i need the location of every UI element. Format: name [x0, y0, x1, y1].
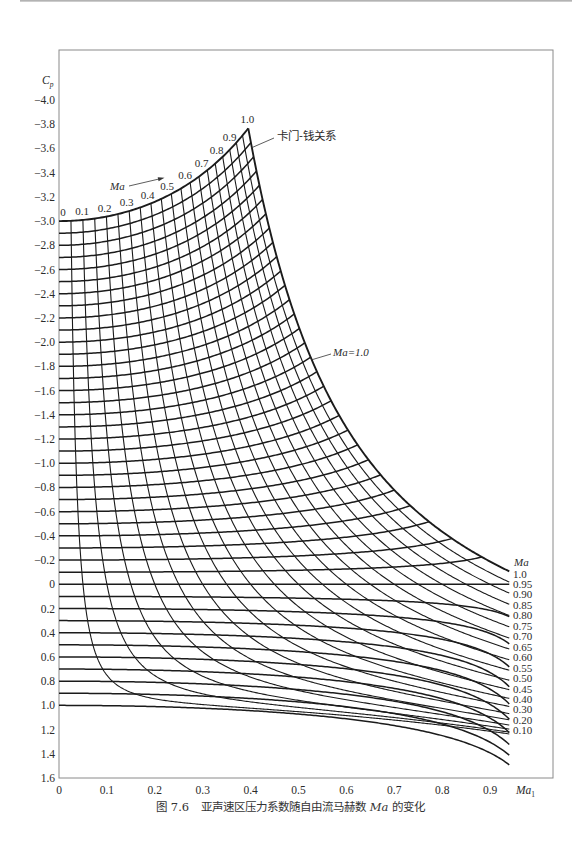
x-axis-label-subscript: 1 [531, 790, 535, 799]
local-mach-curve-8 [161, 199, 509, 690]
karman-tsien-label: 卡门-钱关系 [277, 129, 336, 143]
y-axis-label: Cp [42, 74, 54, 89]
top-mach-label: 0.9 [223, 131, 237, 143]
cp0-line-34 [59, 633, 509, 687]
local-mach-curves [71, 128, 509, 734]
x-axis-label-symbol: Ma [515, 784, 532, 796]
caption-text-tail: 的变化 [388, 800, 426, 814]
y-tick-label: 1.4 [41, 748, 56, 760]
x-tick-label: 0.9 [483, 784, 498, 796]
y-tick-label: 0.2 [41, 603, 56, 615]
y-tick-label: −0.4 [34, 530, 55, 542]
y-tick-label: −0.8 [34, 481, 55, 493]
top-mach-label: 1.0 [240, 113, 254, 125]
y-tick-label: −2.0 [34, 336, 55, 348]
y-tick-label: −1.0 [34, 457, 55, 469]
y-tick-label: −2.2 [34, 312, 55, 324]
y-tick-label: −2.8 [34, 239, 55, 251]
top-mach-label: 0 [60, 206, 66, 218]
pressure-coefficient-chart: −4.0−3.8−3.6−3.4−3.2−3.0−2.8−2.6−2.4−2.2… [0, 0, 584, 849]
top-arrow-label: Ma [109, 180, 125, 192]
y-tick-label: 0.8 [41, 675, 56, 687]
critical-mach-leader [311, 354, 331, 360]
caption-text: 亚声速区压力系数随自由流马赫数 [201, 800, 370, 814]
y-tick-label: −1.8 [34, 360, 55, 372]
x-tick-label: 0.4 [243, 784, 258, 796]
incompressible-cp-lines [59, 128, 509, 765]
karman-tsien-leader [251, 138, 274, 148]
y-axis-label-subscript: p [49, 80, 54, 89]
y-tick-label: −4.0 [34, 94, 55, 106]
local-mach-curve-13 [207, 170, 509, 638]
y-tick-label: −3.2 [34, 191, 55, 203]
critical-mach-label: Ma=1.0 [332, 346, 369, 358]
y-tick-label: 0.6 [41, 651, 56, 663]
cp0-line-18 [59, 386, 324, 439]
cp0-line-28 [59, 539, 452, 561]
caption-figure-number: 图 7.6 [156, 800, 189, 814]
top-mach-labels: 00.10.20.30.40.50.60.70.80.91.0 [60, 113, 254, 218]
y-tick-label: 0 [49, 578, 55, 590]
x-tick-label: 0.2 [148, 784, 163, 796]
y-tick-label: −2.6 [34, 264, 55, 276]
local-mach-curve-10 [181, 188, 509, 670]
y-tick-label: 1.6 [41, 772, 56, 784]
x-tick-label: 0.3 [196, 784, 211, 796]
x-tick-label: 0.7 [387, 784, 402, 796]
top-arrow-shaft [129, 179, 159, 186]
cp0-line-31 [59, 596, 509, 616]
y-tick-label: −3.8 [34, 118, 55, 130]
right-mach-label: 0.10 [513, 724, 533, 736]
right-mach-labels: 1.00.950.900.850.800.750.700.650.600.550… [513, 568, 533, 737]
top-mach-label: 0.5 [160, 180, 174, 192]
y-tick-label: −3.6 [34, 142, 55, 154]
cp0-line-25 [59, 490, 394, 524]
y-tick-label: −2.4 [34, 288, 55, 300]
y-tick-label: 0.4 [41, 627, 56, 639]
top-mach-label: 0.1 [75, 205, 89, 217]
top-mach-label: 0.6 [178, 169, 192, 181]
local-mach-curve-16 [230, 150, 510, 605]
y-tick-label: −3.4 [34, 167, 55, 179]
top-mach-label: 0.2 [98, 202, 112, 214]
y-tick-label: −1.2 [34, 433, 55, 445]
y-tick-label: −1.6 [34, 385, 55, 397]
x-tick-label: 0.6 [339, 784, 354, 796]
y-tick-label: −0.2 [34, 554, 55, 566]
right-labels-header: Ma [513, 556, 529, 568]
y-tick-label: 1.0 [41, 699, 56, 711]
x-tick-label: 0 [56, 784, 62, 796]
x-tick-labels: 00.10.20.30.40.50.60.70.80.9 [56, 784, 497, 796]
y-tick-labels: −4.0−3.8−3.6−3.4−3.2−3.0−2.8−2.6−2.4−2.2… [34, 94, 55, 784]
local-mach-curve-1 [83, 220, 509, 732]
top-mach-label: 0.7 [195, 157, 209, 169]
figure-caption: 图 7.6亚声速区压力系数随自由流马赫数 Ma 的变化 [138, 800, 436, 814]
y-tick-label: −3.0 [34, 215, 55, 227]
x-tick-label: 0.1 [100, 784, 115, 796]
x-tick-label: 0.8 [435, 784, 450, 796]
x-tick-label: 0.5 [291, 784, 306, 796]
x-axis-label: Ma1 [515, 784, 535, 799]
top-mach-label: 0.8 [210, 144, 224, 156]
local-mach-curve-5 [129, 211, 509, 714]
top-mach-label: 0.3 [120, 196, 134, 208]
y-tick-label: −0.6 [34, 506, 55, 518]
cp0-line-35 [59, 645, 509, 704]
cp0-line-26 [59, 506, 410, 536]
cp0-line-39 [59, 693, 509, 755]
local-mach-curve-17 [236, 143, 509, 593]
plot-frame [59, 50, 553, 778]
y-tick-label: 1.2 [41, 724, 56, 736]
caption-symbol: Ma [369, 800, 389, 814]
y-tick-label: −1.4 [34, 409, 55, 421]
local-mach-curve-4 [118, 214, 509, 720]
top-mach-label: 0.4 [141, 189, 155, 201]
